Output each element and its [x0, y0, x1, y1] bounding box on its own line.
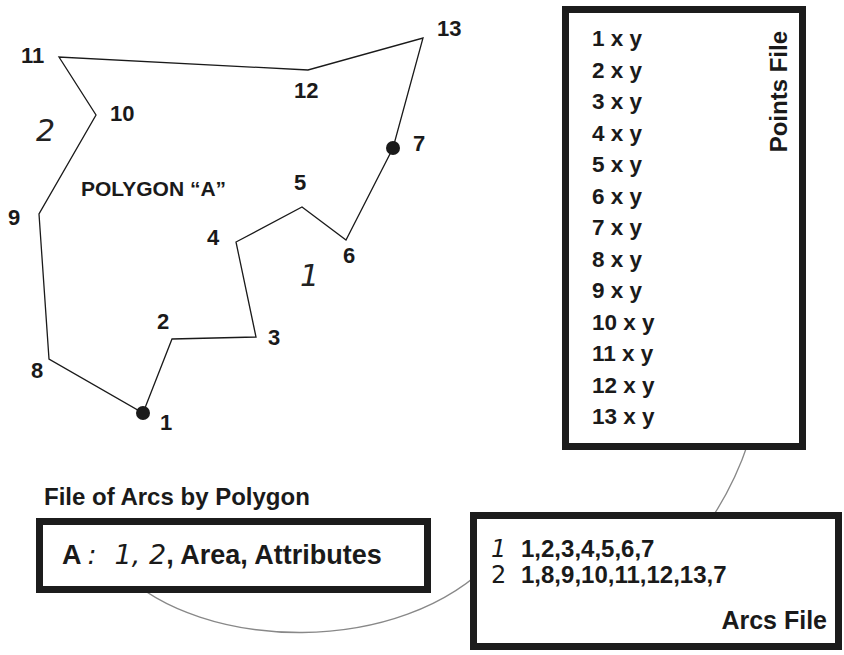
- polygon-label: POLYGON “A”: [81, 178, 226, 199]
- points-file-title: Points File: [765, 31, 793, 152]
- points-row: 11 x y: [592, 338, 655, 370]
- arc-ref-1: 1: [115, 539, 132, 570]
- points-row: 9 x y: [592, 275, 655, 307]
- polygon-attributes: , Area, Attributes: [166, 540, 382, 570]
- polygon-outline: [39, 38, 423, 413]
- arcs-file-title: Arcs File: [721, 606, 827, 635]
- points-row: 8 x y: [592, 244, 655, 276]
- point-label-8: 8: [31, 360, 43, 382]
- point-label-7: 7: [413, 133, 425, 155]
- points-row: 4 x y: [592, 118, 655, 150]
- arc-label-1: 1: [300, 258, 319, 293]
- points-file-box: 1 x y 2 x y 3 x y 4 x y 5 x y 6 x y 7 x …: [562, 6, 806, 450]
- node-7-dot: [386, 141, 400, 155]
- comma: ,: [132, 539, 149, 570]
- points-row: 13 x y: [592, 401, 655, 433]
- point-label-12: 12: [294, 80, 318, 102]
- point-label-6: 6: [343, 245, 355, 267]
- arc-row: 21,8,9,10,11,12,13,7: [491, 561, 727, 589]
- point-label-3: 3: [268, 327, 280, 349]
- arcs-by-polygon-title: File of Arcs by Polygon: [44, 483, 310, 511]
- arc-id: 1: [491, 535, 521, 563]
- arc-points: 1,2,3,4,5,6,7: [521, 535, 654, 562]
- polygon-record: A:1, 2, Area, Attributes: [62, 539, 382, 571]
- points-row: 6 x y: [592, 181, 655, 213]
- point-label-4: 4: [207, 227, 219, 249]
- point-label-10: 10: [110, 103, 134, 125]
- points-row: 1 x y: [592, 23, 655, 55]
- polygon-id: A: [62, 540, 82, 570]
- points-row: 5 x y: [592, 149, 655, 181]
- arcs-file-box: 11,2,3,4,5,6,7 21,8,9,10,11,12,13,7 Arcs…: [470, 512, 842, 650]
- node-1-dot: [136, 406, 150, 420]
- arc-points: 1,8,9,10,11,12,13,7: [521, 561, 727, 588]
- arc-label-2: 2: [36, 113, 55, 148]
- separator: :: [88, 539, 97, 570]
- points-row: 12 x y: [592, 370, 655, 402]
- arc-ref-2: 2: [149, 539, 166, 570]
- point-label-1: 1: [160, 412, 172, 434]
- points-row: 3 x y: [592, 86, 655, 118]
- points-row: 7 x y: [592, 212, 655, 244]
- points-row: 2 x y: [592, 55, 655, 87]
- point-label-11: 11: [21, 45, 44, 67]
- point-label-9: 9: [8, 207, 20, 229]
- points-row: 10 x y: [592, 307, 655, 339]
- arc-id: 2: [491, 561, 521, 589]
- arcs-by-polygon-box: A:1, 2, Area, Attributes: [36, 518, 431, 593]
- arc-row: 11,2,3,4,5,6,7: [491, 535, 654, 563]
- point-label-5: 5: [294, 172, 306, 194]
- point-label-2: 2: [157, 311, 169, 333]
- point-label-13: 13: [437, 18, 461, 40]
- points-list: 1 x y 2 x y 3 x y 4 x y 5 x y 6 x y 7 x …: [592, 23, 655, 433]
